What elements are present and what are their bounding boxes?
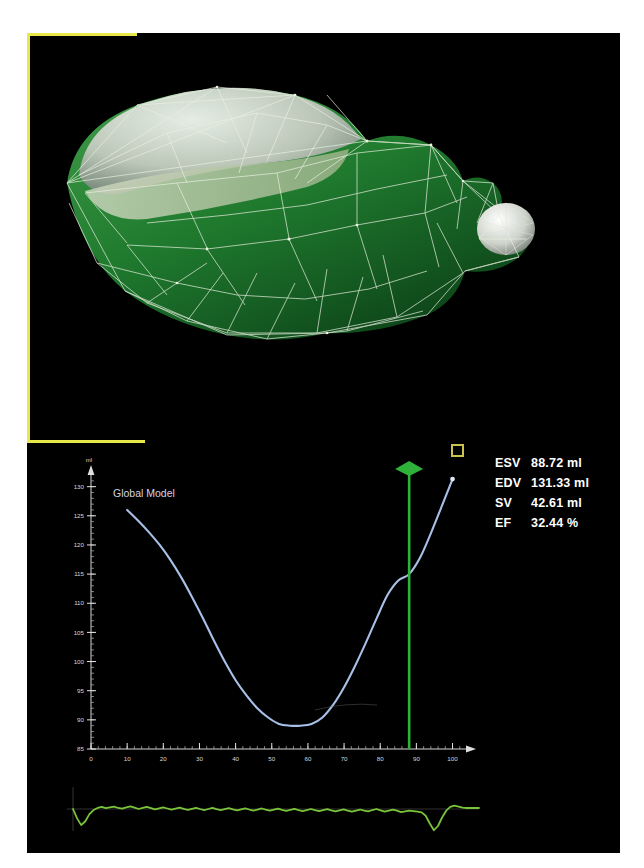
y-tick-label: 95	[77, 687, 84, 694]
metric-value: 131.33 ml	[531, 473, 589, 493]
x-tick-label: 90	[413, 755, 420, 762]
metric-label: SV	[495, 493, 531, 513]
metric-label: EDV	[495, 473, 531, 493]
x-tick-label: 20	[160, 755, 167, 762]
y-tick-label: 120	[74, 541, 85, 548]
metric-value: 42.61 ml	[531, 493, 582, 513]
ecg-strip[interactable]	[47, 785, 487, 847]
viewport-3d[interactable]	[27, 33, 620, 438]
x-tick-label: 60	[304, 755, 311, 762]
cardiac-mesh-render[interactable]	[27, 33, 620, 438]
selection-frame-bottom	[27, 440, 145, 443]
x-tick-label: 100	[447, 755, 458, 762]
metric-row: EDV131.33 ml	[495, 473, 589, 493]
volume-curve-line	[127, 479, 452, 726]
y-tick-label: 110	[74, 599, 84, 606]
y-tick-label: 105	[74, 629, 85, 636]
volume-curve-svg[interactable]: 0102030405060708090100859095100105110115…	[47, 453, 477, 788]
x-tick-label: 30	[196, 755, 203, 762]
metric-value: 88.72 ml	[531, 453, 582, 473]
x-tick-label: 10	[124, 755, 131, 762]
x-tick-label: 80	[377, 755, 384, 762]
metric-row: SV42.61 ml	[495, 493, 589, 513]
volume-curve-chart[interactable]: 0102030405060708090100859095100105110115…	[47, 453, 477, 788]
x-tick-label: 0	[89, 755, 93, 762]
y-tick-label: 115	[74, 570, 84, 577]
application-window: ESV88.72 ml EDV131.33 ml SV42.61 ml EF32…	[0, 0, 644, 868]
app-canvas: ESV88.72 ml EDV131.33 ml SV42.61 ml EF32…	[27, 33, 620, 853]
volume-metrics-panel: ESV88.72 ml EDV131.33 ml SV42.61 ml EF32…	[495, 453, 589, 533]
y-axis-arrow	[88, 465, 95, 475]
curve-endpoint-marker	[450, 477, 455, 482]
metric-row: ESV88.72 ml	[495, 453, 589, 473]
x-tick-label: 50	[268, 755, 275, 762]
metric-value: 32.44 %	[531, 513, 578, 533]
ecg-waveform-svg[interactable]	[47, 785, 487, 847]
faint-arc-artifact	[315, 704, 377, 710]
x-tick-label: 40	[232, 755, 239, 762]
x-tick-label: 70	[341, 755, 348, 762]
y-tick-label: 125	[74, 512, 85, 519]
y-tick-label: 90	[77, 716, 84, 723]
phase-cursor-handle	[395, 461, 423, 476]
y-tick-label: 130	[74, 483, 85, 490]
metric-label: ESV	[495, 453, 531, 473]
y-tick-label: 100	[74, 658, 85, 665]
x-axis-arrow	[466, 746, 476, 753]
metric-row: EF32.44 %	[495, 513, 589, 533]
y-axis-unit: ml	[86, 457, 92, 463]
series-label: Global Model	[113, 487, 175, 499]
metric-label: EF	[495, 513, 531, 533]
y-tick-label: 85	[77, 745, 84, 752]
